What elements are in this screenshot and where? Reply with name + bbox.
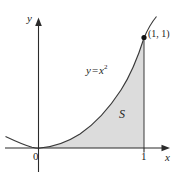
y-axis-label: y [27,13,32,24]
x-tick-label-one: 1 [141,151,147,162]
graph-figure: y x 0 1 (1, 1) S y=x2 [0,0,182,177]
curve-equation-exponent: 2 [104,63,108,71]
point-marker-1-1 [141,35,146,40]
curve-equation-operator: = [91,64,99,76]
x-axis-label: x [165,152,170,163]
curve-equation-label: y=x2 [86,65,108,76]
point-label-1-1: (1, 1) [148,29,170,39]
y-axis-arrow-icon [35,18,42,27]
region-label-s: S [119,108,125,120]
shaded-region-s [39,39,145,149]
origin-label: 0 [33,151,39,162]
graph-canvas [0,0,182,177]
